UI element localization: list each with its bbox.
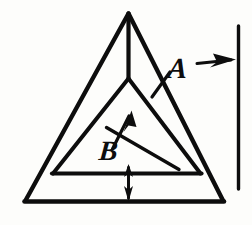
dimension-label-a: A bbox=[167, 54, 188, 83]
b-double-arrow bbox=[124, 164, 133, 202]
diagram-svg bbox=[0, 0, 252, 225]
dimension-label-b: B bbox=[98, 137, 119, 165]
figure-canvas: A B bbox=[0, 0, 252, 225]
